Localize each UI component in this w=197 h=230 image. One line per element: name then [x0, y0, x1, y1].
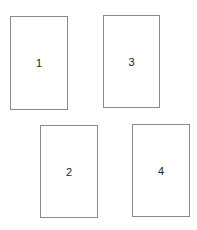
box-3: 3 [103, 15, 160, 108]
box-4: 4 [132, 124, 190, 217]
box-2: 2 [40, 125, 98, 218]
box-2-label: 2 [66, 166, 72, 178]
box-4-label: 4 [158, 165, 164, 177]
box-1-label: 1 [36, 57, 42, 69]
box-3-label: 3 [128, 56, 134, 68]
box-1: 1 [10, 16, 68, 110]
